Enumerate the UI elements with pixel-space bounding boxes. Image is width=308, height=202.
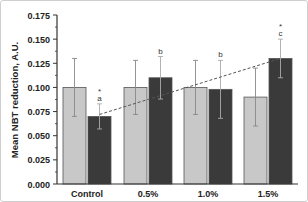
y-tick-label: 0.025 xyxy=(27,155,50,165)
x-tick-label: 1.0% xyxy=(198,189,219,199)
significance-label: * xyxy=(98,87,101,96)
y-tick-label: 0.175 xyxy=(27,11,50,21)
significance-label: b xyxy=(158,47,163,56)
bars: a*bbc* xyxy=(63,22,292,184)
significance-label: b xyxy=(218,50,223,59)
x-tick-label: Control xyxy=(71,189,103,199)
x-tick-label: 1.5% xyxy=(258,189,279,199)
x-axis: Control0.5%1.0%1.5% xyxy=(57,184,298,199)
y-axis-label: Mean NBT reduction, A.U. xyxy=(9,42,20,158)
y-tick-label: 0.150 xyxy=(27,35,50,45)
x-tick-label: 0.5% xyxy=(138,189,159,199)
chart-frame: 0.0000.0250.0500.0750.1000.1250.1500.175… xyxy=(0,0,308,202)
y-tick-label: 0.075 xyxy=(27,107,50,117)
y-tick-label: 0.125 xyxy=(27,59,50,69)
y-axis: 0.0000.0250.0500.0750.1000.1250.1500.175 xyxy=(27,11,57,190)
y-tick-label: 0.000 xyxy=(27,180,50,190)
y-tick-label: 0.100 xyxy=(27,83,50,93)
y-tick-label: 0.050 xyxy=(27,131,50,141)
bar-chart: 0.0000.0250.0500.0750.1000.1250.1500.175… xyxy=(1,1,308,202)
significance-label: * xyxy=(279,22,282,31)
